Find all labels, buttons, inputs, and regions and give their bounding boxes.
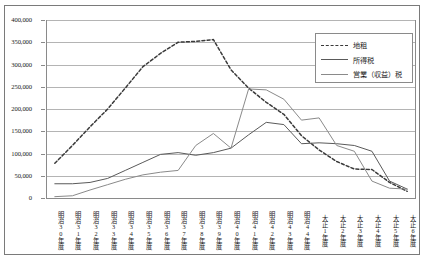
x-axis-label: 明治35年度 — [134, 202, 151, 258]
legend-label: 地租 — [353, 40, 367, 50]
y-axis-label: 50,000 — [14, 172, 32, 179]
y-axis-tick — [41, 109, 45, 110]
x-axis-label: 大正2年度 — [328, 202, 345, 258]
x-axis-label: 明治34年度 — [117, 202, 134, 258]
legend-swatch-icon — [321, 41, 348, 50]
series-line — [55, 122, 407, 189]
x-axis-label: 明治41年度 — [240, 202, 257, 258]
chart-screenshot: 400,000350,000300,000250,000200,000150,0… — [0, 0, 425, 260]
x-axis-label: 明治38年度 — [187, 202, 204, 258]
legend-label: 所得税 — [353, 55, 374, 65]
x-axis-label: 大正6年度 — [399, 202, 416, 258]
x-axis-label: 明治30年度 — [46, 202, 63, 258]
y-axis-label: 400,000 — [11, 16, 32, 23]
y-axis-tick — [41, 131, 45, 132]
x-axis-label: 明治36年度 — [152, 202, 169, 258]
x-axis-label: 大正4年度 — [363, 202, 380, 258]
x-axis: 明治30年度明治31年度明治32年度明治33年度明治34年度明治35年度明治36… — [46, 202, 416, 260]
x-axis-label: 明治39年度 — [205, 202, 222, 258]
legend-label: 営業（収益）税 — [353, 69, 402, 79]
x-axis-label: 明治32年度 — [82, 202, 99, 258]
y-axis-tick — [41, 65, 45, 66]
legend-swatch-icon — [321, 55, 348, 64]
y-axis-label: 300,000 — [11, 61, 32, 68]
chart-legend: 地租所得税営業（収益）税 — [315, 33, 413, 83]
legend-item[interactable]: 営業（収益）税 — [321, 67, 402, 81]
x-axis-label: 明治31年度 — [64, 202, 81, 258]
legend-item[interactable]: 所得税 — [321, 53, 374, 67]
gridline — [46, 198, 416, 199]
series-line — [55, 89, 407, 197]
y-axis-tick — [41, 176, 45, 177]
x-axis-label: 明治42年度 — [258, 202, 275, 258]
y-axis-tick — [41, 42, 45, 43]
x-axis-label: 大正3年度 — [346, 202, 363, 258]
x-axis-label: 明治40年度 — [223, 202, 240, 258]
y-axis-label: 200,000 — [11, 105, 32, 112]
x-axis-label: 明治44年度 — [293, 202, 310, 258]
y-axis-tick — [41, 20, 45, 21]
y-axis-label: 0 — [29, 194, 32, 201]
x-axis-label: 明治43年度 — [275, 202, 292, 258]
x-axis-label: 明治33年度 — [99, 202, 116, 258]
x-axis-label: 大正5年度 — [381, 202, 398, 258]
y-axis-label: 350,000 — [11, 38, 32, 45]
y-axis-label: 250,000 — [11, 83, 32, 90]
x-axis-label: 明治37年度 — [170, 202, 187, 258]
legend-swatch-icon — [321, 70, 348, 79]
y-axis-tick — [41, 87, 45, 88]
y-axis-tick — [41, 198, 45, 199]
chart-frame: 400,000350,000300,000250,000200,000150,0… — [4, 5, 420, 255]
y-axis-label: 150,000 — [11, 127, 32, 134]
y-axis-tick — [41, 154, 45, 155]
legend-item[interactable]: 地租 — [321, 38, 367, 52]
x-axis-label: 大正1年度 — [311, 202, 328, 258]
y-axis-label: 100,000 — [11, 150, 32, 157]
